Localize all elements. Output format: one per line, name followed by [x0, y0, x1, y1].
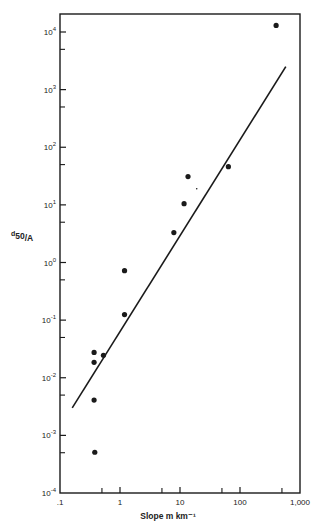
annotations — [196, 188, 198, 190]
y-tick-label: 10-4 — [42, 487, 57, 498]
data-point — [92, 450, 97, 455]
y-axis-title: d50/A — [11, 230, 33, 243]
data-point — [226, 164, 231, 169]
x-tick-label: 1 — [118, 498, 123, 507]
y-tick-label: 10-1 — [42, 314, 57, 325]
x-tick-label: 100 — [233, 498, 247, 507]
data-point — [122, 268, 127, 273]
data-point — [185, 174, 190, 179]
data-points — [91, 23, 278, 455]
y-tick-label: 104 — [44, 26, 57, 37]
chart: .11101001,000 10-410-310-210-11001011021… — [0, 0, 323, 527]
stray-mark — [196, 188, 198, 190]
x-tick-label: 10 — [176, 498, 185, 507]
data-point — [122, 312, 127, 317]
data-point — [171, 230, 176, 235]
data-point — [101, 353, 106, 358]
y-tick-label: 10-3 — [42, 429, 57, 440]
data-point — [181, 201, 186, 206]
data-point — [274, 23, 279, 28]
x-tick-label: 1,000 — [290, 498, 311, 507]
plot-frame — [60, 14, 300, 493]
y-tick-label: 10-2 — [42, 372, 57, 383]
data-point — [91, 397, 96, 402]
x-axis-ticks: .11101001,000 — [57, 487, 311, 507]
y-tick-label: 102 — [44, 141, 57, 152]
data-point — [91, 350, 96, 355]
x-tick-label: .1 — [57, 498, 64, 507]
y-axis-ticks: 10-410-310-210-1100101102103104 — [42, 26, 66, 498]
y-tick-label: 103 — [44, 84, 57, 95]
data-point — [91, 360, 96, 365]
y-tick-label: 101 — [44, 199, 57, 210]
x-axis-title: Slope m km⁻¹ — [140, 511, 196, 521]
y-tick-label: 100 — [44, 257, 57, 268]
